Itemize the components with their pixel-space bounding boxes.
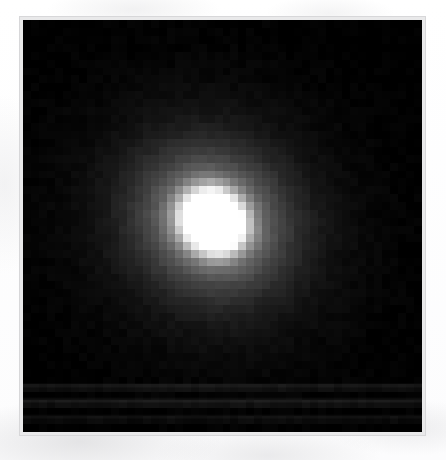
image-plate-frame xyxy=(20,17,425,435)
sky-image-container xyxy=(23,20,422,432)
astronomical-source-heatmap xyxy=(23,20,422,432)
scanned-page: Bright blob centered slightly above midd… xyxy=(0,0,446,460)
